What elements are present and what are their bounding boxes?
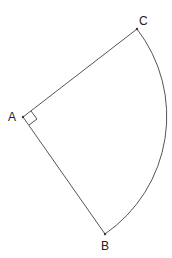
point-a [22, 116, 24, 118]
segment-ab [23, 117, 105, 234]
label-a: A [8, 110, 16, 124]
label-c: C [139, 14, 148, 28]
right-angle-marker [29, 111, 37, 125]
point-c [136, 28, 138, 30]
arc-cb [105, 29, 167, 234]
label-b: B [101, 239, 109, 253]
sector-diagram: A C B [0, 0, 172, 258]
segment-ac [23, 29, 137, 117]
point-b [104, 233, 106, 235]
